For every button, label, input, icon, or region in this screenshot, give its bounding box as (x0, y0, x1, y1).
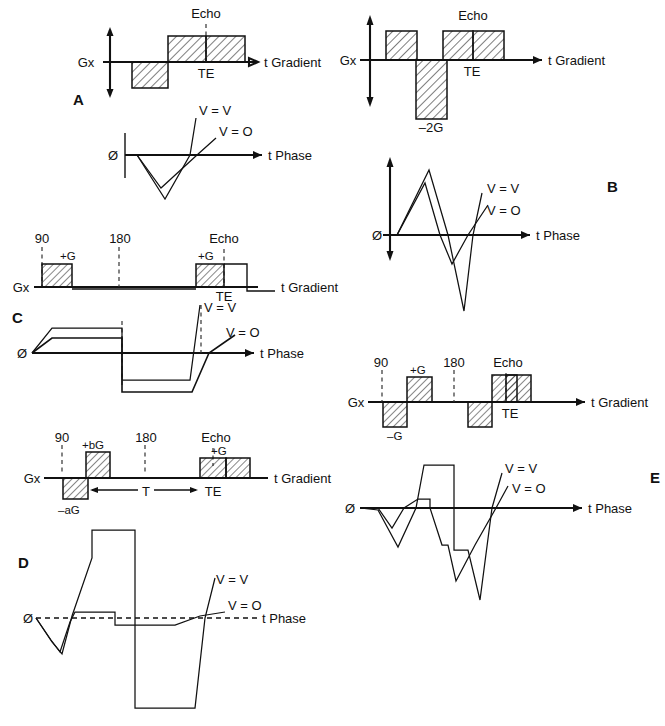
curve-label-v-equals-o: V = O (219, 124, 253, 139)
gradient-lobe-negative-2 (468, 402, 492, 427)
gradient-lobe-plus-g-1 (42, 264, 72, 287)
t-interval-arrow-left (90, 487, 98, 493)
phi-label: Ø (23, 611, 33, 626)
panel-letter-d: D (18, 554, 29, 571)
gradient-lobe-label-plus-bg: +bG (82, 439, 104, 451)
t-interval-label: T (142, 484, 150, 499)
curve-label-v-equals-o: V = O (487, 203, 521, 218)
gradient-lobe-label-minus-g: –G (387, 430, 402, 442)
panel-e-gradient: Gx 90 180 Echo +G –G TE t Gradient (348, 355, 649, 442)
gradient-lobe-positive-2 (206, 36, 245, 62)
echo-label: Echo (458, 8, 488, 23)
gradient-lobe-minus-ag (63, 478, 88, 499)
gradient-lobe-plus-g-1 (200, 458, 226, 478)
panel-c: Gx 90 180 Echo +G +G TE t Gradient C (0, 225, 340, 425)
phase-curve-v-equals-v (360, 465, 502, 600)
gradient-lobe-positive-2 (443, 31, 473, 60)
panel-e: Gx 90 180 Echo +G –G TE t Gradient Ø (330, 355, 665, 615)
gradient-lobe-label-plus-g: +G (211, 445, 227, 457)
phase-axis-label: t Phase (268, 148, 312, 163)
gx-label: Gx (340, 53, 357, 68)
panel-a-svg: Gx Echo TE t Gradient A Ø V = V V = O t … (0, 0, 340, 210)
echo-label: Echo (191, 6, 221, 21)
te-label: TE (205, 484, 222, 499)
rf90-label: 90 (374, 355, 388, 370)
gradient-axis-arrow (576, 398, 585, 406)
rf180-label: 180 (135, 430, 157, 445)
gradient-lobe-positive-1 (168, 36, 206, 62)
gradient-lobe-positive-1 (386, 31, 417, 60)
panel-letter-c: C (12, 309, 23, 326)
phi-label: Ø (372, 228, 382, 243)
gradient-axis-label: t Gradient (548, 53, 605, 68)
gradient-amplitude-label: –2G (419, 120, 444, 135)
panel-letter-b: B (607, 178, 618, 195)
panel-b-svg: Gx Echo TE –2G t Gradient Ø V = V V = O … (330, 0, 665, 330)
gradient-lobe-label-2: +G (198, 250, 214, 262)
gx-label: Gx (24, 471, 41, 486)
curve-label-v-equals-v: V = V (487, 181, 519, 196)
panel-a: Gx Echo TE t Gradient A Ø V = V V = O t … (0, 0, 340, 210)
panel-c-gradient: Gx 90 180 Echo +G +G TE t Gradient (13, 231, 339, 304)
echo-label: Echo (493, 355, 523, 370)
gradient-lobe-plus-g-2 (196, 264, 224, 287)
gradient-axis-label: t Gradient (274, 471, 331, 486)
phase-axis-arrow (253, 151, 262, 159)
phase-curve-v-equals-o (360, 486, 508, 581)
gradient-lobe-plus-g-2 (226, 458, 250, 478)
phi-label: Ø (17, 346, 27, 361)
gradient-axis-arrow-up (107, 27, 114, 36)
curve-label-v-equals-o: V = O (228, 598, 262, 613)
panel-d-svg: Gx 90 180 Echo +bG –aG +G T TE t G (0, 430, 340, 726)
gradient-lobe-label-plus-g: +G (410, 364, 426, 376)
te-label: TE (198, 66, 215, 81)
gradient-axis-arrow-up (367, 15, 374, 25)
panel-e-svg: Gx 90 180 Echo +G –G TE t Gradient Ø (330, 355, 665, 615)
t-interval-arrow: T (90, 482, 198, 499)
gradient-axis-arrow-down (367, 97, 374, 107)
phase-axis-label: t Phase (262, 611, 306, 626)
panel-c-svg: Gx 90 180 Echo +G +G TE t Gradient C (0, 225, 340, 425)
gradient-lobe-plus-bg (86, 452, 110, 478)
phase-axis-arrow (573, 504, 582, 512)
gradient-axis-label: t Gradient (591, 395, 648, 410)
phi-label: Ø (108, 148, 118, 163)
curve-label-v-equals-o: V = O (512, 481, 546, 496)
te-label: TE (502, 406, 519, 421)
phase-axis-arrow-up (387, 157, 394, 167)
gradient-axis-label: t Gradient (264, 55, 321, 70)
panel-d-phase: Ø V = V V = O t Phase (23, 530, 306, 708)
gx-label: Gx (13, 280, 30, 295)
panel-d: Gx 90 180 Echo +bG –aG +G T TE t G (0, 430, 340, 726)
gradient-lobe-positive-3b (506, 375, 531, 402)
panel-e-phase: Ø V = V V = O t Phase E (345, 461, 660, 600)
te-label: TE (464, 64, 481, 79)
gradient-lobe-positive-3 (473, 31, 504, 60)
gradient-lobe-negative (132, 62, 168, 88)
rf180-label: 180 (109, 231, 131, 246)
phase-axis-arrow-down (387, 251, 394, 261)
curve-label-v-equals-v: V = V (199, 103, 231, 118)
panel-d-gradient: Gx 90 180 Echo +bG –aG +G T TE t G (24, 430, 332, 516)
curve-label-v-equals-v: V = V (216, 572, 248, 587)
phase-axis-label: t Phase (588, 501, 632, 516)
panel-a-gradient: Gx Echo TE t Gradient (78, 6, 322, 98)
curve-label-v-equals-v: V = V (204, 300, 236, 315)
phase-axis-label: t Phase (260, 346, 304, 361)
gradient-lobe-minus-g (383, 402, 407, 427)
panel-letter-a: A (73, 91, 84, 108)
panel-c-phase: Ø V = V V = O t Phase (17, 300, 304, 392)
rf180-label: 180 (443, 355, 465, 370)
gradient-lobe-label-1: +G (60, 250, 76, 262)
gradient-axis-arrow-down (107, 89, 114, 98)
gx-label: Gx (78, 55, 95, 70)
phase-curve-v-equals-v (390, 170, 482, 311)
panel-b: Gx Echo TE –2G t Gradient Ø V = V V = O … (330, 0, 665, 330)
echo-label: Echo (209, 231, 239, 246)
phase-curve-v-equals-o (125, 138, 216, 188)
gradient-axis-label: t Gradient (281, 280, 338, 295)
phase-axis-label: t Phase (536, 228, 580, 243)
echo-label: Echo (201, 430, 231, 445)
phase-axis-arrow (245, 349, 254, 357)
curve-label-v-equals-o: V = O (226, 325, 260, 340)
